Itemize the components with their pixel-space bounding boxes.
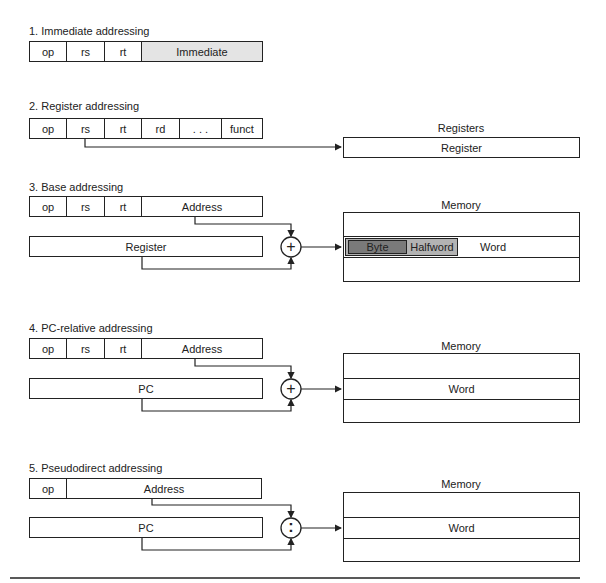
field-rd: rd — [141, 118, 180, 139]
pc-register-box: PC — [29, 378, 263, 399]
memory-word-row: Word — [343, 378, 580, 400]
field-rt: rt — [104, 118, 142, 139]
pc-register-box: PC — [29, 517, 263, 538]
field-shamt: . . . — [179, 118, 222, 139]
field-address: Address — [66, 478, 262, 499]
adder-plus-icon: + — [281, 379, 301, 399]
word-label: Word — [480, 241, 506, 253]
field-op: op — [29, 41, 67, 62]
field-immediate: Immediate — [141, 41, 263, 62]
registers-label: Registers — [343, 122, 579, 134]
field-rt: rt — [104, 196, 142, 217]
section-title-immediate: 1. Immediate addressing — [29, 25, 149, 37]
field-op: op — [29, 196, 67, 217]
field-op: op — [29, 338, 67, 359]
field-rs: rs — [66, 118, 105, 139]
register-file-row: Register — [343, 137, 580, 158]
field-rs: rs — [66, 338, 105, 359]
memory-word-row: Word — [343, 517, 580, 539]
field-rt: rt — [104, 41, 142, 62]
field-address: Address — [141, 338, 263, 359]
memory-label: Memory — [343, 340, 579, 352]
field-funct: funct — [221, 118, 263, 139]
field-rs: rs — [66, 196, 105, 217]
section-title-pseudodirect: 5. Pseudodirect addressing — [29, 462, 162, 474]
base-register-box: Register — [29, 236, 263, 257]
section-title-register: 2. Register addressing — [29, 100, 139, 112]
field-address: Address — [141, 196, 263, 217]
halfword-label: Halfword — [408, 240, 456, 254]
memory-label: Memory — [343, 478, 579, 490]
memory-label: Memory — [343, 199, 579, 211]
section-title-pc-relative: 4. PC-relative addressing — [29, 322, 153, 334]
adder-plus-icon: + — [281, 237, 301, 257]
byte-box: Byte — [348, 240, 407, 254]
section-title-base: 3. Base addressing — [29, 181, 123, 193]
field-op: op — [29, 478, 67, 499]
field-rt: rt — [104, 338, 142, 359]
concat-colon-icon: : — [281, 517, 301, 537]
field-rs: rs — [66, 41, 105, 62]
field-op: op — [29, 118, 67, 139]
